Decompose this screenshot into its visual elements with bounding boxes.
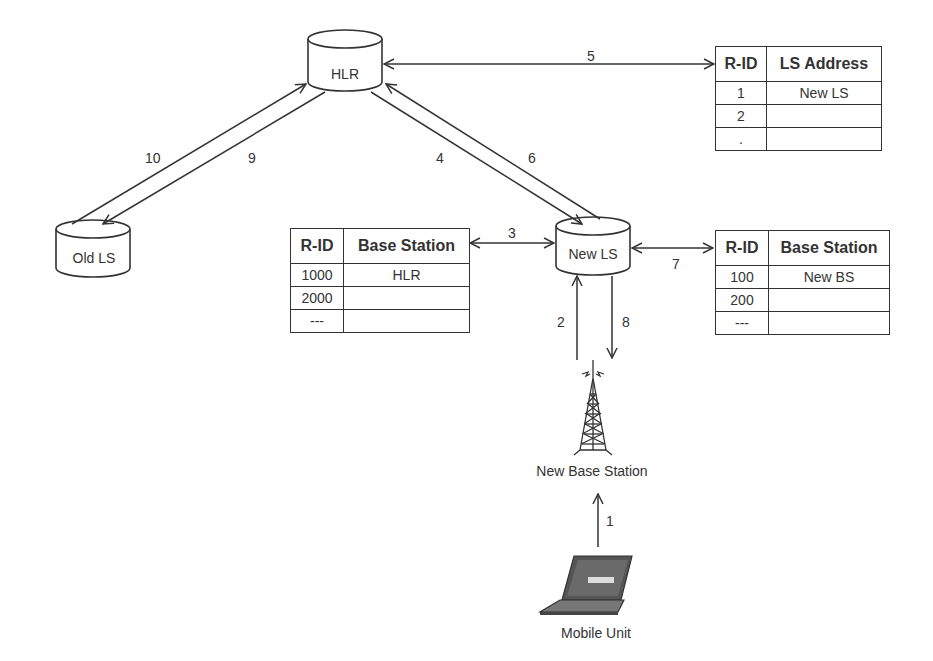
cell-rid: .	[716, 128, 767, 151]
table-row: ---	[716, 312, 890, 335]
cell-base-station	[769, 289, 890, 312]
cell-rid: 200	[716, 289, 769, 312]
arrow-label-1: 1	[606, 513, 614, 529]
new-ls-left-table: R-ID Base Station 1000 HLR 2000 ---	[290, 228, 470, 333]
cell-ls-address: New LS	[767, 82, 882, 105]
table-row: 2	[716, 105, 882, 128]
table-row: ---	[291, 310, 470, 333]
cell-base-station: New BS	[769, 266, 890, 289]
cell-rid: ---	[716, 312, 769, 335]
cell-ls-address	[767, 105, 882, 128]
arrow-4	[371, 92, 582, 224]
arrow-label-9: 9	[248, 150, 256, 166]
arrow-9	[103, 92, 325, 224]
cell-rid: 2	[716, 105, 767, 128]
arrow-10	[72, 84, 306, 224]
arrow-label-7: 7	[672, 256, 680, 272]
mobile-unit-label: Mobile Unit	[548, 625, 644, 641]
hlr-label: HLR	[320, 66, 370, 82]
table-row: 2000	[291, 287, 470, 310]
cell-rid: 2000	[291, 287, 344, 310]
cell-base-station: HLR	[344, 264, 470, 287]
col-header-ls-address: LS Address	[767, 47, 882, 82]
hlr-location-table: R-ID LS Address 1 New LS 2 .	[715, 46, 882, 151]
table-row: 200	[716, 289, 890, 312]
table-row: 1000 HLR	[291, 264, 470, 287]
table-row: .	[716, 128, 882, 151]
arrow-label-10: 10	[145, 150, 161, 166]
radio-tower-icon	[574, 360, 612, 455]
cell-rid: ---	[291, 310, 344, 333]
cell-rid: 100	[716, 266, 769, 289]
col-header-rid: R-ID	[716, 231, 769, 266]
new-ls-right-table: R-ID Base Station 100 New BS 200 ---	[715, 230, 890, 335]
old-ls-label: Old LS	[66, 250, 122, 266]
arrow-label-6: 6	[528, 150, 536, 166]
col-header-rid: R-ID	[291, 229, 344, 264]
col-header-base-station: Base Station	[344, 229, 470, 264]
cell-base-station	[344, 310, 470, 333]
cell-ls-address	[767, 128, 882, 151]
arrow-label-3: 3	[508, 225, 516, 241]
arrow-6	[386, 84, 600, 219]
new-ls-label: New LS	[562, 246, 624, 262]
arrow-label-8: 8	[622, 314, 630, 330]
new-base-station-label: New Base Station	[522, 463, 662, 479]
cell-base-station	[344, 287, 470, 310]
cell-rid: 1000	[291, 264, 344, 287]
cell-rid: 1	[716, 82, 767, 105]
table-row: 100 New BS	[716, 266, 890, 289]
col-header-rid: R-ID	[716, 47, 767, 82]
table-row: 1 New LS	[716, 82, 882, 105]
arrow-label-5: 5	[587, 48, 595, 64]
laptop-icon	[540, 556, 632, 615]
arrow-label-4: 4	[436, 150, 444, 166]
cell-base-station	[769, 312, 890, 335]
old-ls-database-icon	[56, 220, 130, 277]
col-header-base-station: Base Station	[769, 231, 890, 266]
arrow-label-2: 2	[557, 314, 565, 330]
